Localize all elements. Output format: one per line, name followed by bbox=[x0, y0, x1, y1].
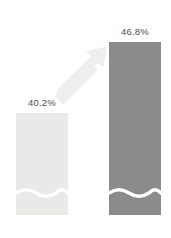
bar-2 bbox=[109, 42, 161, 215]
bar-chart: 40.2% 46.8% bbox=[0, 0, 171, 238]
bar-1-value-label: 40.2% bbox=[16, 98, 68, 108]
bar-2-value-label: 46.8% bbox=[109, 27, 161, 37]
bar-1-fill bbox=[16, 113, 68, 215]
bar-1 bbox=[16, 113, 68, 215]
growth-arrow-icon bbox=[56, 47, 107, 105]
